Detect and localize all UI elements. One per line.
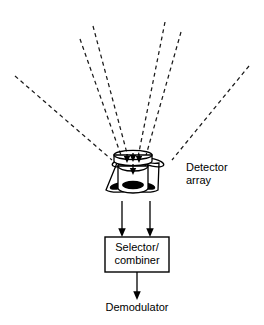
demodulator-label: Demodulator [106, 301, 169, 313]
detector-array-label-line1: Detector [186, 161, 228, 173]
detector-center-sensor-face [122, 181, 144, 189]
selector-combiner-label-line1: Selector/ [115, 241, 159, 253]
detector-array-diagram: Detector array Selector/ combiner Demodu… [0, 0, 264, 325]
detector-array-label-line2: array [186, 174, 212, 186]
ray-far-right [172, 66, 249, 160]
detector-output-arrow-group [122, 201, 150, 233]
ray-right-inner [138, 22, 165, 157]
selector-combiner-label-line2: combiner [114, 254, 160, 266]
diagram-canvas: Detector array Selector/ combiner Demodu… [0, 0, 264, 325]
detector-array-graphic [106, 150, 165, 193]
incoming-ray-group [15, 22, 249, 160]
selector-combiner-block[interactable]: Selector/ combiner [105, 237, 169, 272]
